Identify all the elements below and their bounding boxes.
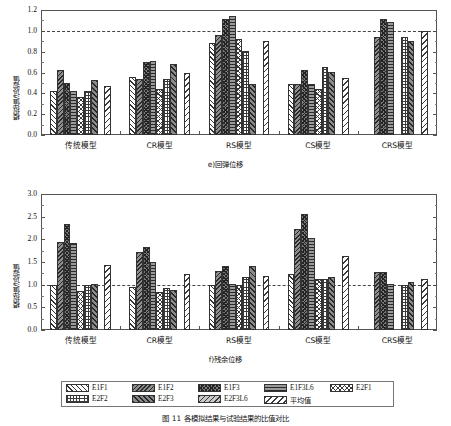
y-tick-mark (41, 330, 45, 331)
y-tick-label: 0.0 (16, 325, 37, 334)
bar (64, 224, 71, 330)
bar (315, 89, 322, 135)
y-tick-label: 3.0 (16, 189, 37, 198)
x-tick-label: CR模型 (120, 334, 199, 345)
y-tick-mark-right (433, 52, 437, 53)
bar (91, 80, 98, 135)
x-group-tick (358, 131, 359, 135)
bar (242, 51, 249, 135)
bar (421, 279, 428, 330)
y-minor-tick (41, 83, 44, 84)
bar (209, 43, 216, 135)
legend-swatch-e1f2 (132, 384, 155, 392)
legend-item-e2f2[interactable]: E2F2 (66, 395, 108, 403)
legend-label-e1f3l6: E1F3L6 (290, 384, 314, 392)
bar (242, 277, 249, 330)
legend-item-e1f2[interactable]: E1F2 (132, 384, 174, 392)
bar (170, 64, 177, 135)
bar (84, 285, 91, 330)
legend-item-e1f3l6[interactable]: E1F3L6 (264, 384, 314, 392)
y-minor-tick (41, 319, 44, 320)
bar (222, 266, 229, 330)
bar (342, 256, 349, 330)
legend-label-avg: 平均值 (290, 395, 311, 405)
bar (387, 22, 394, 135)
bar (301, 214, 308, 330)
bar (294, 229, 301, 330)
x-group-tick (358, 326, 359, 330)
bar (163, 79, 170, 135)
bar (288, 274, 295, 330)
bar (249, 266, 256, 330)
legend-label-e2f3: E2F3 (158, 395, 174, 403)
bar (156, 89, 163, 135)
y-minor-tick (41, 273, 44, 274)
y-tick-label: 0.4 (16, 88, 37, 97)
y-tick-label: 0.6 (16, 68, 37, 77)
y-minor-tick (41, 20, 44, 21)
y-minor-tick-right (435, 205, 438, 206)
y-minor-tick (41, 296, 44, 297)
bar (150, 262, 157, 330)
legend-swatch-e1f1 (66, 384, 89, 392)
x-group-tick (120, 326, 121, 330)
y-minor-tick-right (435, 296, 438, 297)
y-tick-mark (41, 262, 45, 263)
subplot-e: 模拟值/试验值 0.00.20.40.60.81.01.2 传统模型CR模型RS… (0, 6, 451, 176)
x-tick-label: CRS模型 (358, 139, 437, 150)
bar (322, 279, 329, 330)
legend-item-e2f1[interactable]: E2F1 (330, 384, 372, 392)
x-group-tick (199, 131, 200, 135)
x-group-tick (279, 131, 280, 135)
y-tick-label: 0.0 (16, 130, 37, 139)
legend-item-e2f3[interactable]: E2F3 (132, 395, 174, 403)
bar (70, 91, 77, 135)
bar (77, 291, 84, 330)
y-minor-tick-right (435, 251, 438, 252)
bar (184, 73, 191, 135)
bar (408, 41, 415, 135)
bar (236, 285, 243, 330)
legend-label-e2f3l6: E2F3L6 (224, 395, 248, 403)
bar (104, 86, 111, 135)
bar (136, 252, 143, 330)
bar (401, 37, 408, 135)
y-tick-mark (41, 135, 45, 136)
legend-item-e1f1[interactable]: E1F1 (66, 384, 108, 392)
y-minor-tick (41, 125, 44, 126)
y-tick-mark-right (433, 262, 437, 263)
x-group-tick (120, 131, 121, 135)
legend-item-avg[interactable]: 平均值 (264, 395, 311, 405)
legend-item-e2f3l6[interactable]: E2F3L6 (198, 395, 248, 403)
y-tick-label: 2.0 (16, 234, 37, 243)
bar (143, 62, 150, 135)
bar (91, 284, 98, 330)
bar (170, 290, 177, 330)
bar (380, 19, 387, 135)
bar (50, 91, 57, 135)
bar (387, 284, 394, 330)
bar (143, 247, 150, 330)
bar (50, 285, 57, 330)
subplot-f: 模拟值/试验值 0.00.51.01.52.02.53.0 传统模型CR模型RS… (0, 190, 451, 370)
bar (184, 274, 191, 330)
y-minor-tick (41, 62, 44, 63)
x-group-tick (199, 326, 200, 330)
legend-label-e2f2: E2F2 (92, 395, 108, 403)
legend-item-e1f3[interactable]: E1F3 (198, 384, 240, 392)
bar (308, 238, 315, 330)
y-tick-mark-right (433, 217, 437, 218)
y-tick-mark-right (433, 10, 437, 11)
bar (209, 285, 216, 330)
bar (328, 72, 335, 135)
bar (104, 265, 111, 330)
bar (315, 279, 322, 330)
bar (374, 272, 381, 330)
legend-label-e1f3: E1F3 (224, 384, 240, 392)
bar (84, 91, 91, 135)
x-tick-label: 传统模型 (41, 139, 120, 150)
y-tick-mark (41, 10, 45, 11)
y-tick-mark (41, 73, 45, 74)
y-tick-mark-right (433, 307, 437, 308)
bar (401, 285, 408, 330)
